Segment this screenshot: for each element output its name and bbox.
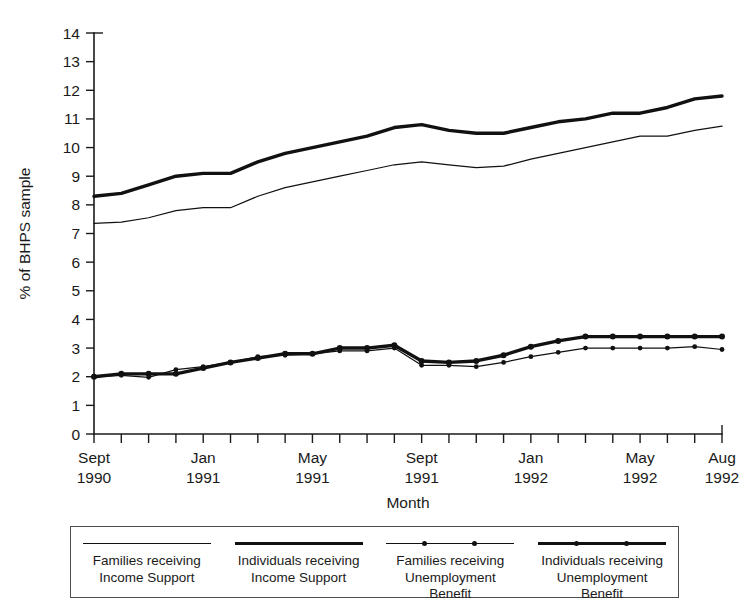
legend-label-line: Individuals receiving bbox=[541, 553, 663, 570]
series-marker-4 bbox=[174, 367, 179, 372]
legend-label-1: Families receivingIncome Support bbox=[93, 553, 201, 586]
series-marker-4 bbox=[392, 346, 397, 351]
y-tick-label: 13 bbox=[63, 53, 80, 70]
series-marker-3 bbox=[501, 352, 507, 358]
x-tick-label-month: Sept bbox=[406, 449, 439, 466]
series-marker-4 bbox=[474, 364, 479, 369]
y-tick-label: 2 bbox=[71, 368, 80, 385]
legend-swatch-2 bbox=[235, 538, 363, 550]
x-axis-title: Month bbox=[386, 494, 429, 510]
y-tick-label: 12 bbox=[63, 82, 80, 99]
series-marker-3 bbox=[582, 334, 588, 340]
legend-label-line: Unemployment bbox=[541, 570, 663, 587]
series-marker-3 bbox=[610, 334, 616, 340]
legend-line-sample bbox=[538, 542, 666, 545]
x-tick-label-year: 1991 bbox=[295, 469, 329, 486]
y-tick-label: 1 bbox=[71, 397, 80, 414]
x-tick-label-month: May bbox=[298, 449, 328, 466]
legend-marker-dot bbox=[472, 541, 477, 546]
series-line-1 bbox=[94, 96, 722, 196]
series-marker-4 bbox=[310, 351, 315, 356]
legend-label-4: Individuals receivingUnemploymentBenefit bbox=[541, 553, 663, 603]
x-tick-label-month: May bbox=[625, 449, 655, 466]
series-marker-3 bbox=[528, 344, 534, 350]
legend-label-3: Families receivingUnemploymentBenefit bbox=[396, 553, 504, 603]
y-tick-label: 0 bbox=[71, 426, 80, 443]
y-tick-label: 7 bbox=[71, 225, 80, 242]
legend-swatch-1 bbox=[83, 538, 211, 550]
y-tick-label: 8 bbox=[71, 196, 80, 213]
legend-label-line: Families receiving bbox=[396, 553, 504, 570]
legend-label-line: Income Support bbox=[93, 570, 201, 587]
legend-label-line: Individuals receiving bbox=[238, 553, 360, 570]
series-marker-4 bbox=[528, 354, 533, 359]
legend-label-2: Individuals receivingIncome Support bbox=[238, 553, 360, 586]
x-tick-label-year: 1991 bbox=[186, 469, 220, 486]
y-tick-label: 11 bbox=[64, 110, 80, 127]
legend-marker-dot bbox=[624, 541, 629, 546]
x-tick-label-year: 1990 bbox=[77, 469, 112, 486]
legend-line-sample bbox=[83, 543, 211, 544]
chart-legend: Families receivingIncome SupportIndividu… bbox=[70, 526, 679, 598]
legend-swatch-4 bbox=[538, 538, 666, 550]
legend-label-line: Families receiving bbox=[93, 553, 201, 570]
x-tick-label-month: Jan bbox=[191, 449, 216, 466]
legend-item-2: Individuals receivingIncome Support bbox=[223, 527, 375, 586]
figure-container: 01234567891011121314Sept1990Jan1991May19… bbox=[0, 0, 751, 616]
legend-marker-dot bbox=[422, 541, 427, 546]
legend-label-line: Income Support bbox=[238, 570, 360, 587]
series-marker-4 bbox=[447, 363, 452, 368]
x-tick-label-month: Aug bbox=[708, 449, 736, 466]
line-chart: 01234567891011121314Sept1990Jan1991May19… bbox=[0, 0, 751, 510]
legend-label-line: Benefit bbox=[541, 586, 663, 603]
series-marker-3 bbox=[719, 334, 725, 340]
x-tick-label-year: 1992 bbox=[705, 469, 739, 486]
x-tick-label-year: 1992 bbox=[514, 469, 548, 486]
legend-label-line: Benefit bbox=[396, 586, 504, 603]
legend-swatch-3 bbox=[386, 538, 514, 550]
series-marker-4 bbox=[92, 374, 97, 379]
series-marker-4 bbox=[119, 373, 124, 378]
y-tick-label: 6 bbox=[71, 254, 80, 271]
series-marker-4 bbox=[665, 346, 670, 351]
legend-line-sample bbox=[386, 543, 514, 544]
y-axis-title: % of BHPS sample bbox=[16, 168, 33, 300]
series-marker-4 bbox=[583, 346, 588, 351]
series-marker-4 bbox=[201, 364, 206, 369]
y-tick-label: 9 bbox=[71, 168, 80, 185]
series-marker-4 bbox=[610, 346, 615, 351]
y-tick-label: 4 bbox=[71, 311, 80, 328]
series-marker-3 bbox=[473, 358, 479, 364]
legend-label-line: Unemployment bbox=[396, 570, 504, 587]
legend-marker-dot bbox=[574, 541, 579, 546]
legend-item-4: Individuals receivingUnemploymentBenefit bbox=[526, 527, 678, 603]
y-tick-label: 3 bbox=[71, 340, 80, 357]
series-marker-4 bbox=[692, 344, 697, 349]
y-tick-label: 10 bbox=[63, 139, 81, 156]
series-marker-4 bbox=[255, 354, 260, 359]
series-marker-3 bbox=[692, 334, 698, 340]
series-marker-3 bbox=[637, 334, 643, 340]
x-tick-label-year: 1991 bbox=[404, 469, 438, 486]
series-marker-4 bbox=[365, 349, 370, 354]
series-marker-4 bbox=[283, 353, 288, 358]
y-tick-label: 14 bbox=[63, 25, 81, 42]
legend-item-1: Families receivingIncome Support bbox=[71, 527, 223, 586]
x-tick-label-month: Sept bbox=[78, 449, 111, 466]
series-marker-4 bbox=[146, 375, 151, 380]
series-marker-4 bbox=[556, 350, 561, 355]
y-tick-label: 5 bbox=[71, 282, 80, 299]
plot-area: 01234567891011121314Sept1990Jan1991May19… bbox=[0, 0, 751, 510]
series-marker-4 bbox=[638, 346, 643, 351]
series-marker-3 bbox=[555, 338, 561, 344]
series-marker-4 bbox=[419, 363, 424, 368]
legend-item-3: Families receivingUnemploymentBenefit bbox=[375, 527, 527, 603]
series-marker-4 bbox=[720, 347, 725, 352]
series-marker-4 bbox=[501, 360, 506, 365]
legend-line-sample bbox=[235, 542, 363, 545]
series-marker-4 bbox=[228, 360, 233, 365]
series-marker-4 bbox=[337, 349, 342, 354]
x-tick-label-year: 1992 bbox=[623, 469, 657, 486]
x-tick-label-month: Jan bbox=[518, 449, 543, 466]
series-marker-3 bbox=[664, 334, 670, 340]
